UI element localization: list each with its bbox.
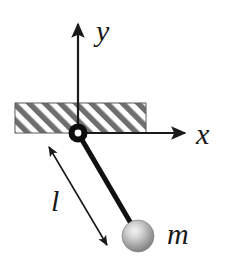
pivot-point [69, 124, 88, 143]
mass-label: m [167, 219, 189, 249]
pendulum-rod [78, 133, 136, 232]
pendulum-diagram: y x l m [0, 0, 236, 265]
y-axis-label: y [96, 16, 109, 46]
length-label: l [51, 186, 59, 216]
pendulum-bob [122, 220, 154, 252]
x-axis-label: x [196, 119, 209, 149]
